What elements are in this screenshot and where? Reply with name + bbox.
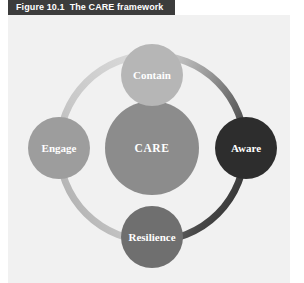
node-contain-label: Contain [133, 69, 171, 81]
node-care-center[interactable]: CARE [105, 101, 199, 195]
node-resilience[interactable]: Resilience [121, 206, 183, 268]
figure-panel: CARE Contain Aware Resilience Engage [8, 15, 290, 283]
node-engage-label: Engage [42, 142, 77, 154]
figure-title: The CARE framework [70, 3, 164, 12]
figure-caption-bar: Figure 10.1 The CARE framework [8, 0, 175, 15]
node-engage[interactable]: Engage [28, 117, 90, 179]
node-resilience-label: Resilience [128, 231, 175, 243]
node-care-label: CARE [135, 142, 170, 154]
node-contain[interactable]: Contain [121, 44, 183, 106]
node-aware-label: Aware [231, 142, 261, 154]
figure-number: Figure 10.1 [16, 3, 65, 12]
node-aware[interactable]: Aware [215, 117, 277, 179]
care-framework-diagram: CARE Contain Aware Resilience Engage [8, 15, 290, 283]
